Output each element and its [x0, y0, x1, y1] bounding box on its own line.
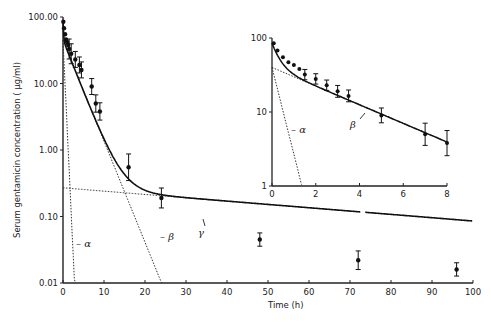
- inset-x-tick-label: 2: [313, 189, 318, 199]
- inset-data-point: [314, 77, 318, 81]
- chart-canvas: 0102030405060708090100100.0010.001.000.1…: [0, 0, 491, 330]
- inset-data-point: [275, 48, 279, 52]
- inset-data-point: [423, 132, 427, 136]
- main-axes: 0102030405060708090100100.0010.001.000.1…: [28, 12, 481, 297]
- data-point: [67, 47, 71, 51]
- inset-y-tick-label: 100: [251, 33, 267, 43]
- inset-x-tick-label: 8: [444, 189, 449, 199]
- y-tick-label: 10.00: [34, 79, 58, 89]
- x-tick-label: 30: [181, 287, 192, 297]
- data-point: [63, 32, 67, 36]
- alpha-label: – α: [76, 238, 91, 249]
- inset-data-point: [286, 60, 290, 64]
- data-point: [61, 19, 65, 23]
- x-tick-label: 70: [345, 287, 356, 297]
- inset-beta-label: β: [349, 119, 356, 130]
- inset-data-point: [297, 67, 301, 71]
- inset-data-point: [272, 41, 276, 45]
- data-point: [159, 196, 163, 200]
- x-tick-label: 90: [427, 287, 438, 297]
- x-tick-label: 100: [465, 287, 481, 297]
- alpha-component-line: [63, 40, 75, 283]
- inset-data-point: [445, 141, 449, 145]
- inset-data-point: [325, 83, 329, 87]
- y-tick-label: 0.10: [39, 212, 58, 222]
- y-tick-label: 0.01: [39, 278, 58, 288]
- inset-data-point: [379, 113, 383, 117]
- data-point: [356, 258, 360, 262]
- main-plot-area: – α– βγ: [61, 19, 472, 283]
- inset-data-point: [347, 94, 351, 98]
- inset-x-tick-label: 4: [357, 189, 362, 199]
- gamma-pointer: [203, 219, 205, 226]
- gamma-label: γ: [198, 227, 204, 238]
- y-tick-label: 1.00: [39, 145, 58, 155]
- figure: 0102030405060708090100100.0010.001.000.1…: [0, 0, 491, 330]
- inset-data-point: [303, 73, 307, 77]
- inset-data-point: [281, 55, 285, 59]
- inset-y-tick-label: 10: [256, 107, 267, 117]
- inset-plot-area: – αβ: [272, 41, 450, 184]
- data-point: [62, 26, 66, 30]
- inset-data-point: [292, 63, 296, 67]
- x-tick-label: 40: [222, 287, 233, 297]
- curve-break: [360, 208, 365, 216]
- data-point: [258, 237, 262, 241]
- beta-label: – β: [160, 231, 174, 242]
- x-axis-label: Time (h): [267, 300, 304, 310]
- x-tick-label: 0: [60, 287, 65, 297]
- x-tick-label: 80: [386, 287, 397, 297]
- data-point: [94, 101, 98, 105]
- inset-axes: 02468100101: [251, 33, 450, 199]
- inset-x-tick-label: 0: [269, 189, 274, 199]
- data-point: [454, 267, 458, 271]
- data-point: [98, 109, 102, 113]
- data-point: [69, 52, 73, 56]
- data-point: [90, 84, 94, 88]
- x-tick-label: 20: [140, 287, 151, 297]
- data-point: [126, 165, 130, 169]
- data-point: [79, 68, 83, 72]
- x-tick-label: 60: [304, 287, 315, 297]
- data-point: [73, 57, 77, 61]
- y-tick-label: 100.00: [28, 12, 58, 22]
- inset-beta-pointer: [360, 113, 365, 119]
- inset-alpha-label: – α: [291, 124, 306, 135]
- x-tick-label: 10: [99, 287, 110, 297]
- inset-data-point: [336, 89, 340, 93]
- inset-y-tick-label: 1: [262, 181, 267, 191]
- y-axis-label: Serum gentamicin concentration ( µg/ml): [12, 62, 22, 238]
- inset-x-tick-label: 6: [401, 189, 406, 199]
- x-tick-label: 50: [263, 287, 274, 297]
- data-point: [77, 63, 81, 67]
